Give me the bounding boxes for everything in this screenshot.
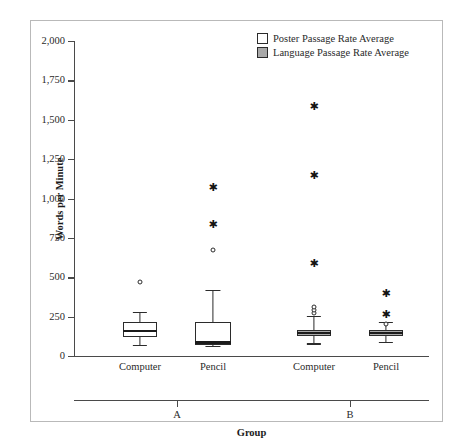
group-tick-mark xyxy=(177,400,178,407)
cut-off-header-glyphs: — — — · ▪ xyxy=(36,0,461,3)
x-tick-label: Pencil xyxy=(200,361,226,372)
whisker-cap-upper xyxy=(307,316,321,317)
y-tick-mark xyxy=(68,159,74,160)
cut-off-header-text: — — — · ▪ xyxy=(0,0,461,8)
outlier-star-marker: ✱ xyxy=(208,219,217,230)
y-tick-label: 500 xyxy=(49,272,65,283)
whisker-cap-lower xyxy=(205,346,220,347)
whisker-cap-lower xyxy=(379,342,393,343)
whisker-upper xyxy=(139,312,140,322)
x-axis-line xyxy=(74,356,429,357)
y-tick-label: 250 xyxy=(49,311,65,322)
whisker-lower xyxy=(139,337,140,345)
y-axis-line xyxy=(74,41,75,356)
y-tick-mark xyxy=(68,238,74,239)
outlier-circle-marker xyxy=(384,321,389,326)
y-tick-label: 1,000 xyxy=(41,193,65,204)
whisker-lower xyxy=(313,336,314,344)
outlier-star-marker: ✱ xyxy=(309,258,318,269)
x-tick-label: Computer xyxy=(293,361,335,372)
y-tick-mark xyxy=(68,41,74,42)
x-axis-title: Group xyxy=(237,427,267,438)
y-tick-label: 0 xyxy=(60,351,65,362)
group-tick-label: B xyxy=(346,409,353,420)
outlier-circle-marker xyxy=(138,279,143,284)
outlier-star-marker: ✱ xyxy=(381,309,390,320)
whisker-cap-upper xyxy=(205,290,220,291)
y-tick-mark xyxy=(68,80,74,81)
y-tick-label: 1,750 xyxy=(41,75,65,86)
y-tick-label: 2,000 xyxy=(41,36,65,47)
chart-figure-frame: Poster Passage Rate Average Language Pas… xyxy=(30,20,443,422)
y-tick-mark xyxy=(68,199,74,200)
plot-area: Words per Minute Group 02505007501,0001,… xyxy=(74,41,429,356)
median-line xyxy=(369,332,403,334)
whisker-upper xyxy=(212,290,213,322)
outlier-star-marker: ✱ xyxy=(309,100,318,111)
y-tick-label: 750 xyxy=(49,233,65,244)
group-tick-label: A xyxy=(173,409,181,420)
group-axis-line xyxy=(74,400,429,401)
median-line xyxy=(297,332,331,334)
y-tick-mark xyxy=(68,317,74,318)
y-tick-label: 1,500 xyxy=(41,115,65,126)
group-tick-mark xyxy=(350,400,351,407)
outlier-star-marker: ✱ xyxy=(309,169,318,180)
whisker-cap-lower xyxy=(133,345,147,346)
outlier-circle-marker xyxy=(211,247,216,252)
median-line xyxy=(123,330,157,332)
median-line xyxy=(195,341,231,343)
outlier-circle-marker xyxy=(312,305,317,310)
outlier-star-marker: ✱ xyxy=(208,181,217,192)
y-tick-mark xyxy=(68,120,74,121)
whisker-cap-upper xyxy=(133,312,147,313)
whisker-upper xyxy=(313,316,314,330)
x-tick-label: Computer xyxy=(119,361,161,372)
x-tick-label: Pencil xyxy=(373,361,399,372)
whisker-cap-lower xyxy=(307,343,321,344)
y-tick-mark xyxy=(68,277,74,278)
outlier-star-marker: ✱ xyxy=(381,288,390,299)
y-tick-label: 1,250 xyxy=(41,154,65,165)
y-tick-mark xyxy=(68,356,74,357)
